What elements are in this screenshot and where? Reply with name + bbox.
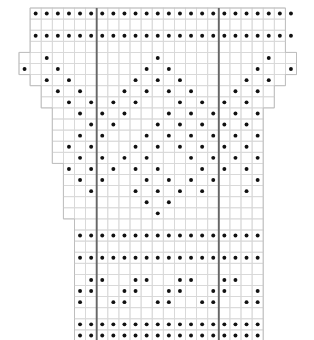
stitch-dot <box>200 12 204 16</box>
stitch-dot <box>89 322 93 326</box>
stitch-dot <box>111 322 115 326</box>
stitch-dot <box>289 34 293 38</box>
stitch-dot <box>178 334 182 338</box>
stitch-dot <box>78 289 82 293</box>
stitch-dot <box>189 256 193 260</box>
stitch-dot <box>256 112 260 116</box>
stitch-dot <box>178 34 182 38</box>
stitch-dot <box>189 89 193 93</box>
stitch-dot <box>189 34 193 38</box>
stitch-dot <box>200 189 204 193</box>
stitch-dot <box>100 234 104 238</box>
stitch-dot <box>156 211 160 215</box>
stitch-dot <box>78 234 82 238</box>
stitch-dot <box>245 100 249 104</box>
stitch-dot <box>89 234 93 238</box>
stitch-dot <box>134 167 138 171</box>
stitch-dot <box>123 289 127 293</box>
stitch-dot <box>178 289 182 293</box>
stitch-dot <box>245 167 249 171</box>
stitch-dot <box>123 334 127 338</box>
stitch-dot <box>78 256 82 260</box>
stitch-dot <box>111 234 115 238</box>
stitch-dot <box>189 334 193 338</box>
stitch-dot <box>189 12 193 16</box>
stitch-dot <box>145 12 149 16</box>
stitch-dot <box>78 300 82 304</box>
stitch-dot <box>256 34 260 38</box>
stitch-dot <box>145 278 149 282</box>
stitch-dot <box>200 145 204 149</box>
stitch-dot <box>123 300 127 304</box>
stitch-dot <box>189 178 193 182</box>
stitch-dot <box>222 34 226 38</box>
stitch-dot <box>289 12 293 16</box>
stitch-dot <box>111 167 115 171</box>
stitch-dot <box>134 34 138 38</box>
stitch-dot <box>100 334 104 338</box>
stitch-dot <box>145 178 149 182</box>
stitch-dot <box>167 200 171 204</box>
stitch-dot <box>156 78 160 82</box>
stitch-dot <box>256 67 260 71</box>
stitch-dot <box>222 278 226 282</box>
stitch-dot <box>89 34 93 38</box>
stitch-dot <box>222 12 226 16</box>
stitch-dot <box>167 112 171 116</box>
stitch-dot <box>245 12 249 16</box>
stitch-dot <box>178 100 182 104</box>
stitch-dot <box>222 289 226 293</box>
stitch-dot <box>100 322 104 326</box>
stitch-dot <box>78 322 82 326</box>
stitch-dot <box>222 322 226 326</box>
stitch-dot <box>234 34 238 38</box>
stitch-dot <box>200 123 204 127</box>
stitch-dot <box>67 167 71 171</box>
stitch-dot <box>156 189 160 193</box>
stitch-dot <box>145 334 149 338</box>
stitch-dot <box>222 256 226 260</box>
stitch-dot <box>111 256 115 260</box>
stitch-dot <box>256 334 260 338</box>
stitch-dot <box>167 12 171 16</box>
stitch-dot <box>45 78 49 82</box>
stitch-dot <box>156 145 160 149</box>
stitch-dot <box>189 134 193 138</box>
stitch-dot <box>167 322 171 326</box>
stitch-dot <box>23 67 27 71</box>
stitch-dot <box>78 334 82 338</box>
stitch-dot <box>145 234 149 238</box>
stitch-dot <box>145 34 149 38</box>
stitch-dot <box>278 12 282 16</box>
stitch-dot <box>256 256 260 260</box>
stitch-dot <box>134 322 138 326</box>
stitch-dot <box>234 256 238 260</box>
stitch-dot <box>123 89 127 93</box>
stitch-dot <box>211 289 215 293</box>
stitch-dot <box>189 156 193 160</box>
stitch-dot <box>234 278 238 282</box>
stitch-dot <box>256 12 260 16</box>
stitch-dot <box>167 289 171 293</box>
stitch-dot <box>200 256 204 260</box>
stitch-dot <box>156 334 160 338</box>
stitch-dot <box>245 78 249 82</box>
stitch-dot <box>89 256 93 260</box>
stitch-dot <box>134 78 138 82</box>
stitch-dot <box>78 89 82 93</box>
stitch-dot <box>178 78 182 82</box>
stitch-dot <box>123 256 127 260</box>
stitch-dot <box>134 256 138 260</box>
stitch-dot <box>167 134 171 138</box>
stitch-dot <box>56 12 60 16</box>
stitch-dot <box>156 322 160 326</box>
stitch-dot <box>78 134 82 138</box>
stitch-dot <box>100 112 104 116</box>
stitch-chart <box>0 0 314 340</box>
stitch-dot <box>134 12 138 16</box>
stitch-dot <box>200 234 204 238</box>
stitch-dot <box>45 34 49 38</box>
stitch-dot <box>256 234 260 238</box>
stitch-dot <box>178 123 182 127</box>
stitch-dot <box>167 234 171 238</box>
